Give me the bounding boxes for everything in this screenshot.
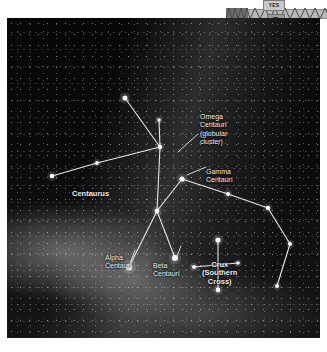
star-hub bbox=[158, 145, 162, 149]
label-centaurus: Centaurus bbox=[72, 190, 109, 198]
line-e3-e4 bbox=[277, 244, 290, 286]
star-crux-top bbox=[215, 237, 220, 242]
line-e1-e2 bbox=[228, 194, 268, 208]
label-omega-centauri: Omega Centauri (globular cluster) bbox=[200, 113, 227, 147]
widget-tag-label: YES bbox=[263, 0, 285, 11]
line-e2-e3 bbox=[268, 208, 290, 244]
leader-gamma bbox=[187, 167, 206, 175]
star-n2 bbox=[157, 118, 161, 122]
label-leader-lines-group bbox=[130, 134, 206, 264]
star-e1 bbox=[226, 192, 230, 196]
label-gamma-centauri: Gamma Centauri bbox=[206, 168, 232, 185]
star-crux-bottom bbox=[216, 288, 221, 293]
line-mid-alpha bbox=[129, 211, 157, 267]
star-gamma bbox=[179, 176, 184, 181]
star-e4 bbox=[275, 284, 279, 288]
line-gamma-mid bbox=[157, 179, 182, 211]
line-hub-w1 bbox=[97, 147, 160, 163]
leader-omega bbox=[178, 134, 198, 152]
line-mid-beta bbox=[157, 211, 175, 258]
line-w1-w2 bbox=[52, 163, 97, 176]
label-alpha-centauri: Alpha Centauri bbox=[105, 254, 131, 271]
star-n1 bbox=[122, 95, 127, 100]
label-crux-southern-cross: Crux (Southern Cross) bbox=[202, 261, 237, 286]
star-crux-left bbox=[192, 265, 196, 269]
star-w2 bbox=[50, 174, 55, 179]
star-w1 bbox=[95, 161, 99, 165]
star-e3 bbox=[288, 242, 292, 246]
star-mid bbox=[155, 209, 160, 214]
label-beta-centauri: Beta Centauri bbox=[153, 262, 179, 279]
star-beta bbox=[172, 255, 178, 261]
star-e2 bbox=[266, 206, 270, 210]
constellation-overlay bbox=[7, 18, 320, 338]
line-n1-hub bbox=[125, 98, 160, 147]
line-hub-mid bbox=[157, 147, 160, 211]
star-chart-photo: Omega Centauri (globular cluster)Gamma C… bbox=[7, 18, 320, 338]
